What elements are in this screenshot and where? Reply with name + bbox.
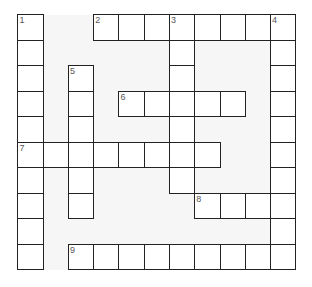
crossword-cell[interactable]: 1 — [17, 14, 43, 41]
crossword-cell[interactable]: 4 — [270, 14, 296, 41]
crossword-grid: 172345689 — [18, 15, 296, 270]
crossword-cell[interactable] — [144, 91, 170, 118]
clue-number: 4 — [272, 15, 277, 25]
crossword-cell[interactable]: 8 — [194, 193, 220, 220]
crossword-cell[interactable] — [169, 244, 195, 271]
crossword-cell[interactable] — [220, 14, 246, 41]
crossword-cell[interactable] — [194, 142, 220, 169]
crossword-cell[interactable] — [118, 142, 144, 169]
crossword-cell[interactable] — [270, 244, 296, 271]
crossword-cell[interactable]: 5 — [68, 65, 94, 92]
crossword-cell[interactable]: 7 — [17, 142, 43, 169]
crossword-cell[interactable] — [270, 91, 296, 118]
crossword-cell[interactable] — [169, 116, 195, 143]
crossword-cell[interactable] — [220, 193, 246, 220]
clue-number: 3 — [171, 15, 176, 25]
crossword-cell[interactable]: 3 — [169, 14, 195, 41]
crossword-cell[interactable] — [68, 142, 94, 169]
crossword-cell[interactable] — [270, 193, 296, 220]
clue-number: 8 — [196, 194, 201, 204]
crossword-cell[interactable] — [17, 244, 43, 271]
crossword-cell[interactable] — [93, 244, 119, 271]
crossword-cell[interactable] — [169, 40, 195, 67]
crossword-cell[interactable] — [93, 142, 119, 169]
crossword-cell[interactable] — [43, 142, 69, 169]
crossword-cell[interactable] — [270, 142, 296, 169]
crossword-cell[interactable] — [194, 91, 220, 118]
crossword-cell[interactable] — [245, 244, 271, 271]
crossword-cell[interactable] — [194, 244, 220, 271]
crossword-cell[interactable] — [270, 65, 296, 92]
clue-number: 5 — [70, 66, 75, 76]
crossword-cell[interactable] — [144, 142, 170, 169]
crossword-cell[interactable] — [144, 14, 170, 41]
crossword-cell[interactable] — [169, 91, 195, 118]
clue-number: 7 — [19, 143, 24, 153]
crossword-cell[interactable] — [270, 167, 296, 194]
crossword-cell[interactable] — [17, 40, 43, 67]
clue-number: 6 — [120, 92, 125, 102]
clue-number: 2 — [95, 15, 100, 25]
clue-number: 1 — [19, 15, 24, 25]
crossword-cell[interactable] — [220, 244, 246, 271]
crossword-cell[interactable] — [17, 116, 43, 143]
crossword-cell[interactable] — [17, 65, 43, 92]
crossword-cell[interactable] — [270, 40, 296, 67]
crossword-cell[interactable] — [118, 14, 144, 41]
crossword-cell[interactable] — [144, 244, 170, 271]
crossword-cell[interactable] — [270, 116, 296, 143]
crossword-cell[interactable] — [169, 167, 195, 194]
crossword-cell[interactable] — [68, 193, 94, 220]
crossword-cell[interactable] — [270, 218, 296, 245]
crossword-cell[interactable]: 6 — [118, 91, 144, 118]
crossword-cell[interactable] — [169, 142, 195, 169]
crossword-cell[interactable] — [68, 91, 94, 118]
crossword-cell[interactable]: 9 — [68, 244, 94, 271]
crossword-cell[interactable] — [17, 91, 43, 118]
crossword-cell[interactable] — [17, 167, 43, 194]
crossword-cell[interactable] — [194, 14, 220, 41]
crossword-cell[interactable] — [245, 193, 271, 220]
clue-number: 9 — [70, 245, 75, 255]
crossword-cell[interactable] — [220, 91, 246, 118]
crossword-cell[interactable] — [118, 244, 144, 271]
crossword-cell[interactable] — [68, 167, 94, 194]
crossword-cell[interactable]: 2 — [93, 14, 119, 41]
crossword-cell[interactable] — [245, 14, 271, 41]
crossword-cell[interactable] — [17, 193, 43, 220]
crossword-cell[interactable] — [68, 116, 94, 143]
crossword-cell[interactable] — [169, 65, 195, 92]
crossword-cell[interactable] — [17, 218, 43, 245]
